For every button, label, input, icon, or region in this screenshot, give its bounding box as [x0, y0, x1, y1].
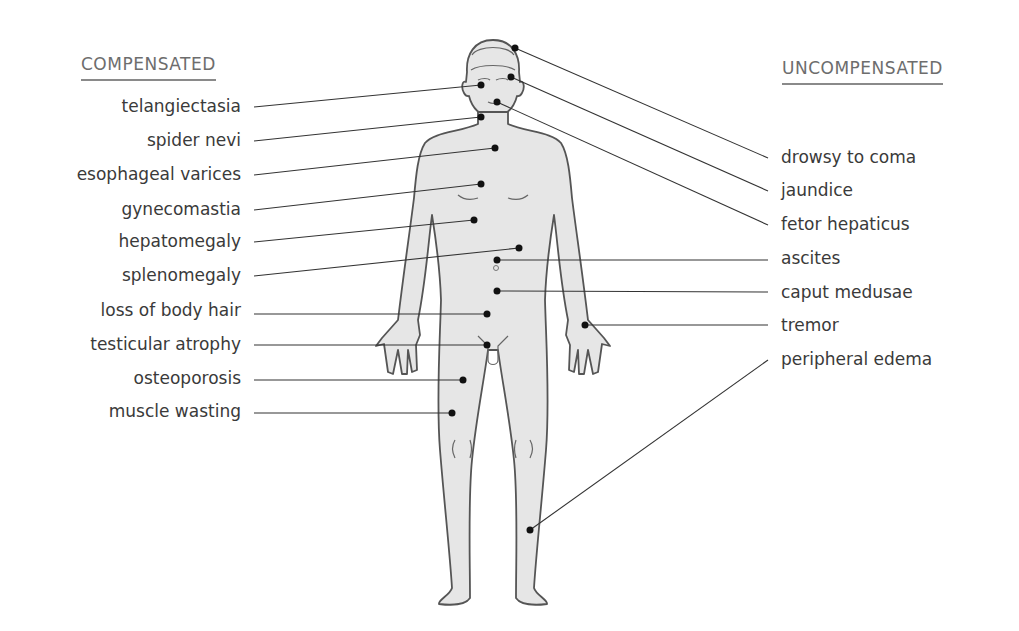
human-body-figure — [0, 0, 1019, 631]
